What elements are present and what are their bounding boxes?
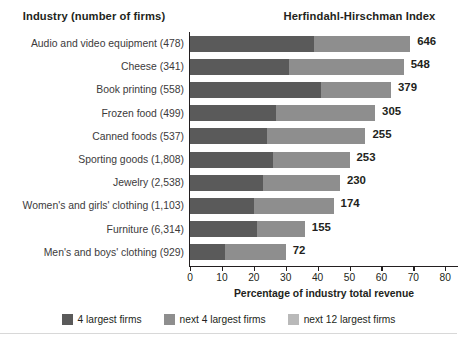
industry-label: Cheese (341) <box>0 55 184 78</box>
legend-label: next 12 largest firms <box>304 314 396 325</box>
bar-segment-next4 <box>276 105 375 121</box>
stacked-bar <box>190 82 391 98</box>
bar-segment-top4 <box>190 128 267 144</box>
stacked-bar <box>190 221 305 237</box>
bar-segment-next4 <box>289 59 404 75</box>
chart-header: Industry (number of firms) Herfindahl-Hi… <box>0 10 457 30</box>
x-axis-tick <box>413 266 414 271</box>
industry-label: Furniture (6,314) <box>0 218 184 241</box>
legend-swatch-next12 <box>288 314 299 325</box>
table-row: Furniture (6,314)155 <box>0 218 457 241</box>
x-axis-tick <box>254 266 255 271</box>
hhi-value: 379 <box>398 79 417 95</box>
stacked-bar <box>190 105 375 121</box>
bar-segment-next4 <box>267 128 366 144</box>
industry-label: Audio and video equipment (478) <box>0 32 184 55</box>
hhi-value: 253 <box>357 149 376 165</box>
bar-segment-next4 <box>257 221 305 237</box>
x-axis-tick-label: 80 <box>440 272 451 283</box>
x-axis-tick <box>318 266 319 271</box>
industry-label: Frozen food (499) <box>0 102 184 125</box>
bar-segment-top4 <box>190 82 321 98</box>
x-axis-tick-label: 20 <box>248 272 259 283</box>
industry-column-title: Industry (number of firms) <box>0 10 188 22</box>
legend-swatch-next4 <box>164 314 175 325</box>
legend-item[interactable]: 4 largest firms <box>62 314 142 325</box>
bar-segment-top4 <box>190 105 276 121</box>
legend-swatch-top4 <box>62 314 73 325</box>
x-axis-tick <box>190 266 191 271</box>
hhi-value: 174 <box>341 195 360 211</box>
bar-segment-next4 <box>254 198 334 214</box>
hhi-value: 548 <box>411 56 430 72</box>
bar-segment-next4 <box>225 244 286 260</box>
legend-item[interactable]: next 4 largest firms <box>164 314 266 325</box>
legend-label: 4 largest firms <box>78 314 142 325</box>
y-axis-line <box>189 32 190 267</box>
x-axis-tick-label: 50 <box>344 272 355 283</box>
table-row: Frozen food (499)305 <box>0 102 457 125</box>
legend-item[interactable]: next 12 largest firms <box>288 314 396 325</box>
stacked-bar <box>190 175 340 191</box>
stacked-bar <box>190 244 286 260</box>
x-axis-tick-label: 70 <box>408 272 419 283</box>
chart-legend: 4 largest firmsnext 4 largest firmsnext … <box>0 309 457 329</box>
x-axis-tick-label: 0 <box>187 272 193 283</box>
bar-segment-top4 <box>190 244 225 260</box>
x-axis-tick-label: 60 <box>376 272 387 283</box>
bar-segment-next4 <box>314 36 410 52</box>
bar-segment-next4 <box>321 82 391 98</box>
table-row: Men's and boys' clothing (929)72 <box>0 241 457 264</box>
x-axis-tick-label: 40 <box>312 272 323 283</box>
industry-label: Jewelry (2,538) <box>0 171 184 194</box>
x-axis-line <box>190 266 458 267</box>
bar-segment-top4 <box>190 198 254 214</box>
hhi-value: 155 <box>312 219 331 235</box>
hhi-value: 305 <box>382 103 401 119</box>
bar-segment-next4 <box>273 152 350 168</box>
table-row: Canned foods (537)255 <box>0 125 457 148</box>
industry-label: Women's and girls' clothing (1,103) <box>0 194 184 217</box>
stacked-bar <box>190 128 365 144</box>
x-axis-title: Percentage of industry total revenue <box>190 288 458 299</box>
x-axis-tick <box>381 266 382 271</box>
table-row: Book printing (558)379 <box>0 78 457 101</box>
x-axis-tick <box>222 266 223 271</box>
stacked-bar <box>190 152 350 168</box>
hhi-value: 230 <box>347 172 366 188</box>
bar-segment-top4 <box>190 152 273 168</box>
table-row: Audio and video equipment (478)646 <box>0 32 457 55</box>
legend-label: next 4 largest firms <box>180 314 266 325</box>
bar-segment-top4 <box>190 175 263 191</box>
bar-segment-next4 <box>263 175 340 191</box>
plot-area: Audio and video equipment (478)646Cheese… <box>0 32 457 270</box>
table-row: Jewelry (2,538)230 <box>0 171 457 194</box>
stacked-bar <box>190 36 410 52</box>
hhi-value: 72 <box>293 242 306 258</box>
hhi-value: 646 <box>417 33 436 49</box>
industry-label: Canned foods (537) <box>0 125 184 148</box>
bar-segment-top4 <box>190 36 314 52</box>
table-row: Women's and girls' clothing (1,103)174 <box>0 194 457 217</box>
bar-segment-top4 <box>190 59 289 75</box>
stacked-bar <box>190 59 404 75</box>
stacked-bar <box>190 198 334 214</box>
table-row: Cheese (341)548 <box>0 55 457 78</box>
x-axis-tick <box>350 266 351 271</box>
hhi-column-title: Herfindahl-Hirschman Index <box>262 10 457 22</box>
hhi-value: 255 <box>372 126 391 142</box>
x-axis-tick-label: 30 <box>280 272 291 283</box>
x-axis: Percentage of industry total revenue 010… <box>0 266 457 300</box>
x-axis-tick <box>286 266 287 271</box>
x-axis-tick-label: 10 <box>216 272 227 283</box>
x-axis-tick <box>445 266 446 271</box>
industry-label: Men's and boys' clothing (929) <box>0 241 184 264</box>
table-row: Sporting goods (1,808)253 <box>0 148 457 171</box>
industry-label: Book printing (558) <box>0 78 184 101</box>
figure-bottom-border <box>0 333 457 342</box>
industry-label: Sporting goods (1,808) <box>0 148 184 171</box>
bar-segment-top4 <box>190 221 257 237</box>
